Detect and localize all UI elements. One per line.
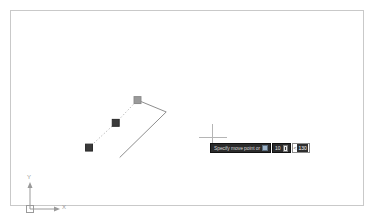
- dropdown-arrow-icon[interactable]: [262, 145, 268, 151]
- ucs-y-arrowhead: [28, 182, 33, 188]
- grip-hot[interactable]: [134, 97, 141, 104]
- angle-value[interactable]: 130: [297, 144, 307, 152]
- distance-input-field[interactable]: 10: [272, 143, 291, 153]
- ucs-x-arrowhead: [54, 207, 60, 212]
- cad-application-window: Specify move point or 10 < 130: [0, 0, 376, 218]
- drawing-area-frame: Specify move point or 10 < 130: [10, 10, 364, 206]
- ucs-x-axis-label: X: [62, 204, 66, 210]
- grip-base-point[interactable]: [86, 144, 93, 151]
- lock-icon[interactable]: [283, 145, 288, 152]
- dynamic-input-tooltip[interactable]: Specify move point or 10 < 130: [210, 143, 310, 153]
- dynamic-input-prompt-label: Specify move point or: [214, 143, 260, 153]
- source-geometry[interactable]: [120, 100, 167, 157]
- grip-midpoint[interactable]: [112, 119, 119, 126]
- angle-input-field[interactable]: < 130: [292, 143, 310, 153]
- dynamic-input-prompt: Specify move point or: [210, 143, 271, 153]
- angle-symbol: <: [294, 143, 297, 153]
- distance-value: 10: [275, 143, 281, 153]
- ucs-icon: Y X: [23, 174, 69, 216]
- ucs-y-axis-label: Y: [27, 174, 31, 180]
